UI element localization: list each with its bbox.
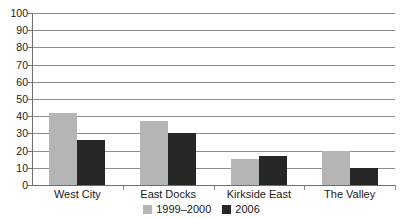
y-tick-label: 100 <box>2 8 28 18</box>
legend-label: 2006 <box>235 204 259 215</box>
legend-swatch <box>143 205 152 214</box>
y-tick-mark <box>28 30 32 31</box>
bar <box>350 168 378 185</box>
y-tick-label: 40 <box>2 111 28 121</box>
y-tick-mark <box>28 13 32 14</box>
y-tick-label: 80 <box>2 42 28 52</box>
bar <box>77 140 105 185</box>
gridline-70 <box>32 65 395 66</box>
legend-item: 2006 <box>222 204 259 215</box>
y-tick-label: 10 <box>2 163 28 173</box>
y-tick-mark <box>28 99 32 100</box>
gridline-50 <box>32 99 395 100</box>
y-tick-label: 20 <box>2 146 28 156</box>
y-tick-label: 70 <box>2 60 28 70</box>
x-tick-label: East Docks <box>123 188 214 201</box>
x-tick-label: Kirkside East <box>214 188 305 201</box>
bar <box>168 133 196 185</box>
chart-legend: 1999–20002006 <box>0 204 403 215</box>
legend-label: 1999–2000 <box>156 204 211 215</box>
bar <box>140 121 168 185</box>
y-tick-label: 90 <box>2 25 28 35</box>
y-tick-label: 50 <box>2 94 28 104</box>
gridline-100 <box>32 13 395 14</box>
y-tick-mark <box>28 82 32 83</box>
y-tick-mark <box>28 47 32 48</box>
bar <box>231 159 259 185</box>
y-axis-tick-labels: 0102030405060708090100 <box>0 0 30 219</box>
bar <box>49 113 77 185</box>
bar <box>322 151 350 185</box>
x-tick-label: West City <box>32 188 123 201</box>
legend-swatch <box>222 205 231 214</box>
y-tick-mark <box>28 168 32 169</box>
y-tick-mark <box>28 116 32 117</box>
gridline-80 <box>32 47 395 48</box>
plot-area <box>32 13 395 185</box>
gridline-90 <box>32 30 395 31</box>
bar-chart: 0102030405060708090100 West CityEast Doc… <box>0 0 403 219</box>
gridline-40 <box>32 116 395 117</box>
y-tick-label: 60 <box>2 77 28 87</box>
y-tick-label: 30 <box>2 128 28 138</box>
legend-item: 1999–2000 <box>143 204 211 215</box>
y-tick-mark <box>28 133 32 134</box>
gridline-30 <box>32 133 395 134</box>
y-tick-mark <box>28 185 32 186</box>
y-tick-mark <box>28 65 32 66</box>
x-tick-label: The Valley <box>304 188 395 201</box>
x-tick-mark <box>395 186 396 190</box>
y-tick-mark <box>28 151 32 152</box>
gridline-60 <box>32 82 395 83</box>
y-axis-line <box>32 13 33 186</box>
bar <box>259 156 287 185</box>
y-tick-label: 0 <box>2 180 28 190</box>
